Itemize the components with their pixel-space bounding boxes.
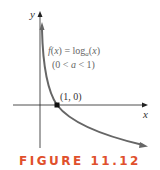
point-label: (1, 0) [60,91,82,103]
figure-caption: FIGURE 11.12 [0,154,160,168]
y-axis-label: y [29,8,35,20]
log-graph: y x (1, 0) f(x) = loga(x) (0 < a < 1) [0,0,160,170]
condition-label: (0 < a < 1) [52,59,95,71]
x-axis-arrow-icon [142,103,148,108]
y-axis-arrow-icon [38,11,43,17]
point-1-0 [55,103,60,108]
x-axis-label: x [142,108,148,120]
function-label: f(x) = loga(x) [48,45,100,58]
curve-end-arrow-icon [139,142,148,148]
